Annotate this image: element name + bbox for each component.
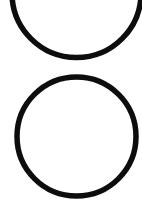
image-canvas (0, 0, 142, 218)
circles-figure (0, 0, 142, 218)
